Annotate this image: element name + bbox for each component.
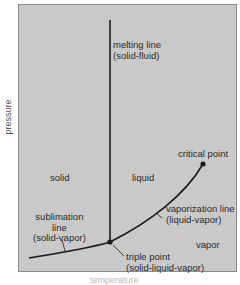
region-liquid-label: liquid [132, 173, 154, 184]
vaporization-leader [156, 213, 162, 218]
triple-point-label: triple point (solid-liquid-vapor) [126, 252, 204, 273]
triple-point-leader [113, 245, 124, 256]
vaporization-label-1: vaporization line [166, 204, 235, 215]
vaporization-label-2: (liquid-vapor) [166, 215, 235, 226]
x-axis-label: temperature [90, 275, 139, 285]
critical-point-marker [200, 161, 205, 166]
sublimation-line [29, 242, 110, 258]
vaporization-line-label: vaporization line (liquid-vapor) [166, 204, 235, 225]
sublimation-line-label: sublimation line (solid-vapor) [33, 212, 86, 244]
melting-line-label: melting line (solid-fluid) [113, 40, 161, 61]
triple-point-marker [107, 239, 112, 244]
region-solid-label: solid [50, 173, 70, 184]
region-vapor-label: vapor [196, 240, 220, 251]
triple-point-label-1: triple point [126, 252, 204, 263]
triple-point-label-2: (solid-liquid-vapor) [126, 263, 204, 274]
melting-line-label-1: melting line [113, 40, 161, 51]
melting-line-label-2: (solid-fluid) [113, 51, 161, 62]
sublimation-label-1: sublimation [33, 212, 86, 223]
critical-point-label: critical point [178, 149, 228, 160]
y-axis-label: pressure [3, 97, 13, 137]
sublimation-label-3: (solid-vapor) [33, 233, 86, 244]
